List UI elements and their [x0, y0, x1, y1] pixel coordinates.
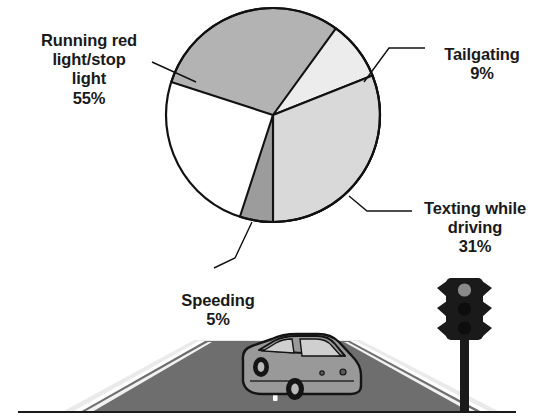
traffic-light-green-lamp — [458, 321, 471, 334]
car-wheel-rear — [286, 378, 304, 400]
traffic-light-red-lamp — [458, 283, 471, 296]
car-rear-detail — [320, 371, 324, 375]
car-wheel-front — [253, 357, 269, 377]
traffic-light-pole — [460, 340, 469, 412]
car-tail-light — [340, 369, 346, 375]
pie-chart-figure: Running red light/stop light 55% Tailgat… — [0, 0, 534, 420]
traffic-light-yellow-lamp — [458, 302, 471, 315]
road-scene-illustration — [0, 0, 534, 420]
